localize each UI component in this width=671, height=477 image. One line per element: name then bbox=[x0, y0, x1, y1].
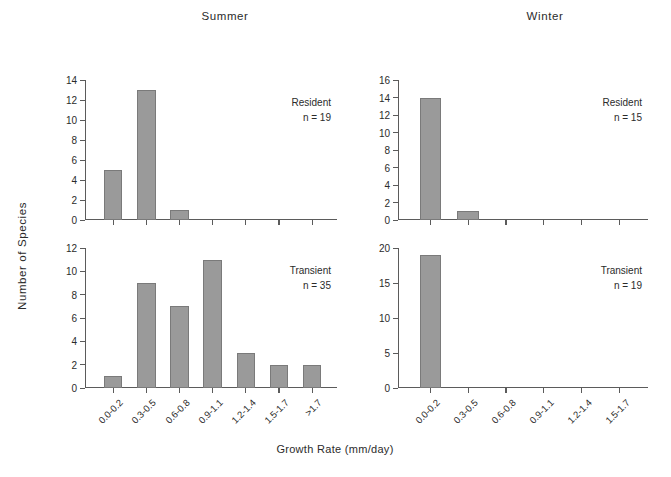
x-tick bbox=[113, 220, 114, 225]
y-tick bbox=[393, 115, 398, 116]
y-tick bbox=[80, 364, 85, 365]
y-tick-label: 0 bbox=[71, 383, 77, 394]
panel-annotation-summer-resident: Residentn = 19 bbox=[292, 96, 331, 125]
panel-sample-size: n = 19 bbox=[292, 111, 331, 126]
y-tick bbox=[80, 220, 85, 221]
y-tick-label: 10 bbox=[379, 127, 390, 138]
y-tick bbox=[80, 180, 85, 181]
panel-annotation-winter-transient: Transientn = 19 bbox=[601, 264, 642, 293]
y-tick-label: 12 bbox=[379, 110, 390, 121]
y-tick-label: 14 bbox=[379, 92, 390, 103]
y-tick-label: 10 bbox=[66, 266, 77, 277]
x-tick bbox=[619, 388, 620, 393]
x-tick bbox=[113, 388, 114, 393]
y-tick-label: 0 bbox=[71, 215, 77, 226]
y-tick-label: 8 bbox=[71, 289, 77, 300]
y-tick-label: 0 bbox=[384, 383, 390, 394]
x-tick bbox=[543, 220, 544, 225]
y-axis-line bbox=[398, 248, 399, 388]
y-tick-label: 10 bbox=[66, 115, 77, 126]
panel-group-label: Transient bbox=[290, 265, 331, 276]
y-tick bbox=[393, 318, 398, 319]
x-tick bbox=[468, 220, 469, 225]
y-tick bbox=[393, 388, 398, 389]
x-tick-label: 1.2-1.4 bbox=[565, 397, 594, 426]
y-axis-line bbox=[398, 80, 399, 220]
y-tick bbox=[393, 132, 398, 133]
column-title-summer: Summer bbox=[150, 10, 300, 22]
y-tick bbox=[393, 202, 398, 203]
y-tick-label: 5 bbox=[384, 348, 390, 359]
x-tick bbox=[312, 220, 313, 225]
x-tick bbox=[179, 388, 180, 393]
y-tick bbox=[80, 80, 85, 81]
panel-group-label: Resident bbox=[603, 97, 642, 108]
x-tick bbox=[430, 388, 431, 393]
bar bbox=[203, 260, 222, 388]
y-tick-label: 2 bbox=[71, 195, 77, 206]
x-tick bbox=[505, 388, 506, 393]
x-tick bbox=[543, 388, 544, 393]
y-tick bbox=[80, 318, 85, 319]
bar bbox=[457, 211, 478, 220]
y-tick-label: 20 bbox=[379, 243, 390, 254]
x-tick bbox=[146, 388, 147, 393]
panel-group-label: Resident bbox=[292, 97, 331, 108]
y-tick-label: 12 bbox=[66, 243, 77, 254]
panel-sample-size: n = 35 bbox=[290, 279, 331, 294]
y-tick bbox=[393, 167, 398, 168]
x-tick bbox=[312, 388, 313, 393]
figure-canvas: Summer Winter Number of Species Growth R… bbox=[0, 0, 671, 477]
y-tick bbox=[80, 140, 85, 141]
x-tick bbox=[245, 220, 246, 225]
y-tick bbox=[80, 248, 85, 249]
bar bbox=[170, 306, 189, 388]
x-tick-label: 0.6-0.8 bbox=[489, 397, 518, 426]
x-tick bbox=[430, 220, 431, 225]
y-tick bbox=[393, 283, 398, 284]
y-axis-line bbox=[85, 248, 86, 388]
x-tick bbox=[146, 220, 147, 225]
panel-winter-resident: 0246810121416Residentn = 15 bbox=[398, 80, 648, 220]
x-tick bbox=[179, 220, 180, 225]
y-tick-label: 16 bbox=[379, 75, 390, 86]
panel-summer-resident: 02468101214Residentn = 19 bbox=[85, 80, 337, 220]
x-tick-label: 0.0-0.2 bbox=[96, 397, 125, 426]
bar bbox=[420, 98, 441, 221]
y-tick-label: 15 bbox=[379, 278, 390, 289]
x-tick-label: >1.7 bbox=[303, 397, 324, 418]
x-tick bbox=[278, 388, 279, 393]
bar bbox=[270, 365, 289, 388]
x-tick bbox=[468, 388, 469, 393]
x-tick-label: 0.6-0.8 bbox=[163, 397, 192, 426]
panel-annotation-summer-transient: Transientn = 35 bbox=[290, 264, 331, 293]
x-tick-label: 0.3-0.5 bbox=[129, 397, 158, 426]
y-tick bbox=[393, 97, 398, 98]
y-tick-label: 4 bbox=[71, 336, 77, 347]
bar bbox=[303, 365, 322, 388]
x-tick-label: 1.5-1.7 bbox=[603, 397, 632, 426]
y-tick-label: 0 bbox=[384, 215, 390, 226]
x-axis-title: Growth Rate (mm/day) bbox=[185, 443, 485, 455]
bar bbox=[137, 90, 156, 220]
y-tick bbox=[393, 185, 398, 186]
y-tick-label: 8 bbox=[71, 135, 77, 146]
bar bbox=[137, 283, 156, 388]
panel-group-label: Transient bbox=[601, 265, 642, 276]
y-tick bbox=[80, 200, 85, 201]
y-tick bbox=[80, 120, 85, 121]
y-tick-label: 6 bbox=[71, 155, 77, 166]
x-tick-label: 1.2-1.4 bbox=[229, 397, 258, 426]
x-tick-label: 1.5-1.7 bbox=[262, 397, 291, 426]
x-tick bbox=[619, 220, 620, 225]
panel-sample-size: n = 19 bbox=[601, 279, 642, 294]
panel-summer-transient: 0246810120.0-0.20.3-0.50.6-0.80.9-1.11.2… bbox=[85, 248, 337, 388]
y-tick bbox=[393, 80, 398, 81]
y-tick-label: 8 bbox=[384, 145, 390, 156]
panel-annotation-winter-resident: Residentn = 15 bbox=[603, 96, 642, 125]
x-axis-line bbox=[85, 219, 337, 220]
x-tick bbox=[505, 220, 506, 225]
y-tick bbox=[80, 388, 85, 389]
y-tick-label: 4 bbox=[384, 180, 390, 191]
bar bbox=[104, 376, 123, 388]
